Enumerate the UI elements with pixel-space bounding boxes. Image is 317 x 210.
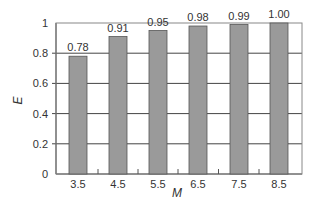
x-tick-label: 4.5 <box>110 178 125 190</box>
bar <box>189 26 207 174</box>
y-tick-label: 0.8 <box>33 47 48 59</box>
bar <box>109 37 127 174</box>
bar <box>230 25 248 174</box>
bars: 0.780.910.950.980.991.00 <box>67 8 289 174</box>
y-tick-label: 1 <box>42 17 48 29</box>
x-tick-label: 5.5 <box>150 178 165 190</box>
plot-frame <box>56 23 302 174</box>
bar <box>149 31 167 174</box>
bar-chart: 0.780.910.950.980.991.00 00.20.40.60.81 … <box>0 0 317 210</box>
bar-value-label: 0.91 <box>107 22 128 34</box>
x-tick-label: 7.5 <box>231 178 246 190</box>
x-tick-label: 6.5 <box>190 178 205 190</box>
y-tick-label: 0.4 <box>33 108 48 120</box>
bar-value-label: 0.99 <box>228 10 249 22</box>
bar-value-label: 1.00 <box>268 8 289 20</box>
x-tick-label: 3.5 <box>70 178 85 190</box>
bar-value-label: 0.98 <box>187 11 208 23</box>
bar <box>270 23 288 174</box>
y-tick-label: 0.6 <box>33 77 48 89</box>
bar-value-label: 0.95 <box>147 16 168 28</box>
y-tick-label: 0.2 <box>33 138 48 150</box>
y-axis-label: E <box>11 96 25 105</box>
y-axis-ticks: 00.20.40.60.81 <box>33 17 48 180</box>
bar-value-label: 0.78 <box>67 41 88 53</box>
x-tick-label: 8.5 <box>271 178 286 190</box>
y-tick-label: 0 <box>42 168 48 180</box>
x-axis-label: M <box>172 186 182 200</box>
bar <box>69 56 87 174</box>
gridlines <box>52 23 302 174</box>
